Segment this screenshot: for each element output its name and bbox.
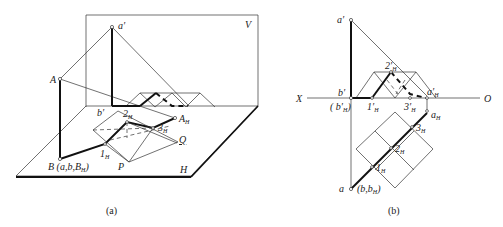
caption-a: (a) xyxy=(106,205,117,217)
label-Q: Q xyxy=(179,134,187,145)
label-3H: 3H xyxy=(157,122,168,134)
label-O: O xyxy=(484,93,491,104)
label-a: a xyxy=(339,183,344,194)
point-aH-prime xyxy=(426,97,429,100)
point-1-prime xyxy=(371,97,374,100)
point-aH xyxy=(426,110,429,113)
roof-v-edge xyxy=(186,93,200,107)
projector-a-AH xyxy=(112,27,189,106)
label-H: H xyxy=(179,164,188,175)
point-3h xyxy=(411,126,414,129)
label-2-prime: 2′H xyxy=(385,60,397,72)
label-b-bH: (b,bH) xyxy=(357,183,381,195)
roof-v-edge xyxy=(374,72,395,98)
figure-b: X O a′ b′ ( b′H) 1′H 2′H 3′H a′H aH 3H 2… xyxy=(295,14,491,217)
point-b-prime xyxy=(349,96,352,99)
label-aH-prime: a′H xyxy=(427,86,439,98)
label-a-prime: a′ xyxy=(337,14,345,25)
point-A xyxy=(58,77,61,80)
point-a-prime xyxy=(110,25,113,28)
label-X: X xyxy=(295,93,303,104)
label-1H: 1H xyxy=(100,148,110,160)
point-a-prime xyxy=(349,18,352,21)
label-b-prime: b′ xyxy=(338,87,346,98)
label-aH: aH xyxy=(431,109,441,121)
label-b-prime-H: ( b′H) xyxy=(330,101,351,113)
point-AH xyxy=(173,116,176,119)
point-1H xyxy=(104,143,107,146)
point-a xyxy=(349,187,352,190)
projection-diagram: V a′ A b′ B (a,b,BH) AH 1H 2H 3H P Q H (… xyxy=(0,0,503,227)
label-AH: AH xyxy=(178,113,190,125)
label-b-prime: b′ xyxy=(97,107,105,118)
h-plane-right-edge xyxy=(191,106,258,177)
label-3h: 3H xyxy=(415,122,426,134)
point-3H xyxy=(152,127,155,130)
label-P: P xyxy=(117,161,124,172)
roof-v-hidden xyxy=(387,80,398,94)
label-V: V xyxy=(245,19,253,30)
label-a-prime: a′ xyxy=(118,20,126,31)
label-B: B (a,b,BH) xyxy=(48,161,89,173)
roof-v-edge xyxy=(172,93,186,107)
point-3-prime xyxy=(409,97,412,100)
label-2H: 2H xyxy=(123,108,133,120)
label-1-prime: 1′H xyxy=(367,101,379,113)
roof-h-ridge xyxy=(127,122,177,143)
figure-a: V a′ A b′ B (a,b,BH) AH 1H 2H 3H P Q H (… xyxy=(16,15,258,217)
line-a-prime-aH-prime xyxy=(351,20,427,96)
roof-v-thick-rise xyxy=(372,72,391,98)
label-3-prime: 3′H xyxy=(403,101,416,113)
label-A: A xyxy=(49,74,57,85)
point-2H xyxy=(126,121,129,124)
point-1h xyxy=(371,166,374,169)
line-A-AH xyxy=(60,79,175,118)
caption-b: (b) xyxy=(388,205,400,217)
roof-v-outer xyxy=(356,72,436,98)
point-2h xyxy=(390,147,393,150)
